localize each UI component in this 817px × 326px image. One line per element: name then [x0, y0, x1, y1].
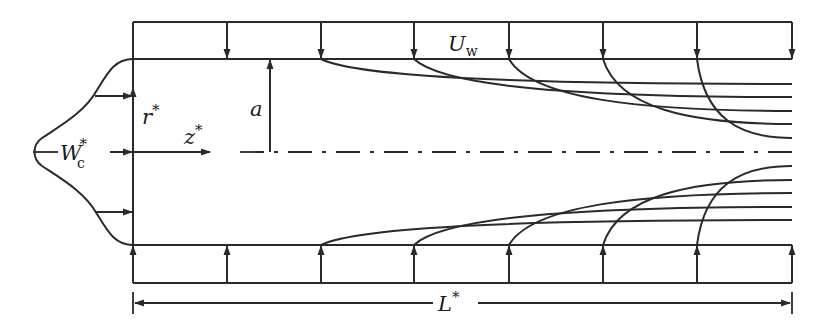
label-length: L*	[437, 288, 460, 316]
channel-flow-diagram: Uw a r* z* W*c L*	[0, 0, 817, 326]
streamline-top	[509, 59, 792, 111]
label-inlet-velocity: W*c	[60, 135, 88, 171]
streamline-top	[697, 59, 792, 138]
streamline-bottom	[603, 180, 792, 245]
label-wall-velocity: Uw	[448, 32, 478, 59]
label-radius: a	[250, 97, 263, 121]
label-radial-coord: r*	[142, 101, 160, 129]
streamline-bottom	[509, 193, 792, 245]
streamline-bottom	[697, 166, 792, 245]
diagram-canvas: Uw a r* z* W*c L*	[0, 0, 817, 326]
label-axial-coord: z*	[183, 121, 203, 149]
inlet-velocity-arrows	[95, 96, 132, 212]
streamline-top	[603, 59, 792, 124]
streamline-top	[321, 59, 792, 84]
streamline-bottom	[321, 220, 792, 245]
length-dimension	[133, 292, 792, 314]
